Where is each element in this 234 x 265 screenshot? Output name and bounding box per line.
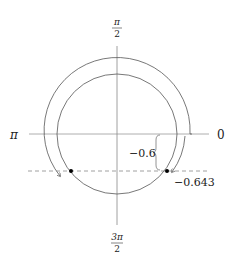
label-pi-over-2-numerator: π [113, 17, 121, 27]
unit-circle-diagram: 0 π π 2 3π 2 −0.6 −0.643 [0, 0, 234, 265]
label-pi-over-2-denominator: 2 [114, 29, 120, 39]
point-left [69, 169, 73, 173]
label-3pi-over-2-numerator: 3π [111, 232, 124, 242]
label-brace-value: −0.6 [129, 147, 156, 160]
label-pi: π [9, 128, 19, 142]
label-zero: 0 [217, 128, 225, 142]
point-right [165, 169, 169, 173]
label-angle-value: −0.643 [174, 176, 215, 189]
label-3pi-over-2-denominator: 2 [114, 244, 120, 254]
